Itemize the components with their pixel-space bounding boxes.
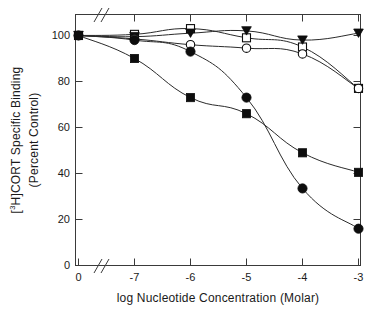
series-line-filled-circle	[79, 36, 359, 229]
data-point-filled-circle	[130, 36, 139, 45]
data-point-filled-square	[186, 94, 194, 102]
svg-text:[3H]CORT Specific Binding: [3H]CORT Specific Binding	[8, 67, 23, 214]
data-point-open-circle	[242, 44, 250, 52]
data-point-filled-square	[242, 110, 250, 118]
series-markers-filled-square	[74, 31, 362, 176]
data-point-filled-square	[354, 168, 362, 176]
figure-container: 0 20 40 60 80 100 0 -7 -6 -5 -4 -3 log N…	[0, 0, 387, 313]
x-tick-labels: 0 -7 -6 -5 -4 -3	[75, 271, 363, 283]
data-point-filled-circle	[354, 224, 363, 233]
x-tick-label: -6	[186, 271, 196, 283]
data-point-filled-square	[74, 31, 82, 39]
y-tick-label: 40	[58, 167, 70, 179]
x-tick-label: -5	[242, 271, 252, 283]
data-point-filled-circle	[298, 184, 307, 193]
data-point-open-circle	[354, 84, 362, 92]
y-axis-title-line1: [3H]CORT Specific Binding	[8, 67, 23, 214]
data-point-filled-square	[298, 149, 306, 157]
y-axis-ticks	[76, 36, 361, 266]
series-markers-filled-circle	[74, 31, 363, 233]
y-axis-title-rest: H]CORT Specific Binding	[9, 67, 23, 206]
x-tick-label: 0	[75, 271, 81, 283]
data-point-filled-square	[130, 54, 138, 62]
x-tick-label: -3	[354, 271, 364, 283]
y-axis-title-line2: (Percent Control)	[27, 93, 41, 188]
series-line-filled-square	[79, 36, 359, 173]
data-point-filled-circle	[242, 93, 251, 102]
plot-frame	[76, 15, 361, 266]
x-tick-label: -4	[298, 271, 308, 283]
x-tick-label: -7	[130, 271, 140, 283]
series-line-open-circle	[79, 36, 359, 89]
chart-canvas: 0 20 40 60 80 100 0 -7 -6 -5 -4 -3 log N…	[0, 0, 387, 313]
y-axis-title-subtitle: (Percent Control)	[27, 93, 41, 188]
data-point-open-circle	[298, 50, 306, 58]
y-tick-label: 80	[58, 75, 70, 87]
y-tick-label: 100	[52, 29, 70, 41]
x-axis-ticks	[79, 15, 359, 266]
y-tick-label: 60	[58, 121, 70, 133]
y-tick-label: 0	[64, 259, 70, 271]
y-tick-label: 20	[58, 213, 70, 225]
y-tick-labels: 0 20 40 60 80 100	[52, 29, 70, 271]
series-layer	[74, 25, 364, 234]
x-axis-title: log Nucleotide Concentration (Molar)	[117, 291, 320, 305]
data-point-filled-circle	[186, 47, 195, 56]
